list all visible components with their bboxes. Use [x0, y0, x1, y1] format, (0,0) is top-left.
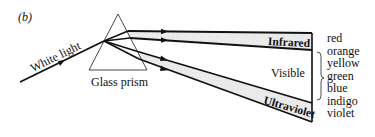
- visible-brace: [317, 52, 324, 100]
- arrow-icon: [160, 56, 168, 61]
- color-yellow: yellow: [327, 57, 360, 70]
- color-blue: blue: [327, 82, 360, 95]
- prism-dispersion-diagram: Infrared Visible Ultraviolet White light…: [0, 0, 375, 137]
- color-red: red: [327, 32, 360, 45]
- color-violet: violet: [327, 107, 360, 120]
- panel-label: (b): [18, 10, 32, 24]
- infrared-label: Infrared: [268, 35, 311, 49]
- glass-prism: [89, 14, 147, 70]
- diagram-canvas: Infrared Visible Ultraviolet White light…: [0, 0, 375, 137]
- glass-prism-label: Glass prism: [91, 75, 149, 89]
- white-light-label: White light: [28, 38, 84, 75]
- visible-color-list: red orange yellow green blue indigo viol…: [327, 32, 360, 120]
- visible-label: Visible: [271, 66, 305, 80]
